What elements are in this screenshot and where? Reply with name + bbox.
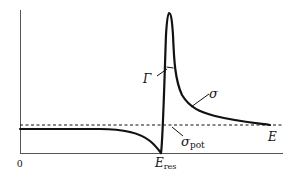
gamma-label: Γ: [142, 72, 152, 86]
sigma-leader: [191, 94, 209, 107]
resonance-diagram: 0 Γ σ σpot E Eres: [0, 0, 295, 177]
sigma-label: σ: [209, 86, 219, 101]
sigma-pot-sub: pot: [190, 140, 205, 150]
energy-axis-label: E: [267, 130, 277, 144]
sigma-pot-label: σpot: [181, 134, 205, 150]
e-res-sub: res: [164, 162, 177, 171]
e-res-label: Eres: [154, 156, 176, 171]
e-res-main: E: [154, 156, 164, 170]
origin-label: 0: [17, 157, 23, 169]
gamma-width-marker: [167, 67, 174, 68]
